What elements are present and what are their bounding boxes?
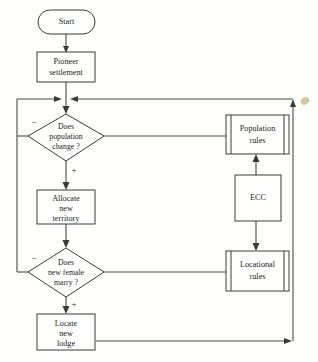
flowchart-canvas: Start Pioneer settlement Does population…: [0, 0, 318, 362]
node-pioneer-settlement-label-line2: settlement: [49, 68, 83, 77]
node-female-decision-label-line2: new female: [48, 268, 85, 277]
node-locate-lodge-label-line2: new: [59, 329, 73, 338]
node-population-rules-label-line1: Population: [240, 124, 275, 133]
node-population-decision-label-line3: change ?: [52, 142, 80, 151]
node-locational-rules[interactable]: Locational rules: [226, 251, 289, 291]
node-pioneer-settlement[interactable]: Pioneer settlement: [37, 52, 95, 82]
node-locate-lodge-label-line3: lodge: [57, 339, 76, 348]
node-start[interactable]: Start: [38, 10, 95, 34]
node-ecc[interactable]: ECC: [235, 175, 281, 221]
connector-right-return-vertical: [290, 99, 296, 341]
node-population-rules[interactable]: Population rules: [226, 115, 289, 154]
node-allocate-new-territory[interactable]: Allocate new territory: [37, 190, 95, 224]
female-decision-negative-sign: −: [31, 253, 36, 263]
node-allocate-label-line2: new: [59, 204, 73, 213]
connector-allocate-to-female-decision: [63, 224, 70, 248]
connector-ecc-to-population-rules: [253, 154, 260, 175]
connector-locational-rules-to-decision: [93, 269, 226, 275]
node-start-label: Start: [59, 17, 75, 26]
node-locational-rules-label-line2: rules: [250, 272, 266, 281]
population-decision-positive-sign: +: [71, 165, 76, 175]
node-population-decision-label-line1: Does: [58, 122, 74, 131]
population-decision-negative-sign: −: [31, 117, 36, 127]
node-locate-lodge-label-line1: Locate: [55, 319, 78, 328]
connector-ecc-to-locational-rules: [253, 221, 260, 251]
connector-female-yes-to-locate-lodge: [63, 297, 70, 314]
connector-junction-to-population-decision: [63, 97, 70, 114]
connector-start-to-pioneer: [63, 34, 69, 53]
flowchart-diagram: Start Pioneer settlement Does population…: [0, 0, 318, 362]
node-female-decision-label-line1: Does: [58, 258, 74, 267]
node-population-rules-label-line2: rules: [250, 136, 266, 145]
node-ecc-label: ECC: [250, 193, 266, 202]
connector-population-rules-to-decision: [93, 133, 226, 139]
connector-right-loop-top: [70, 96, 293, 102]
node-locate-new-lodge[interactable]: Locate new lodge: [37, 314, 95, 350]
node-female-decision-label-line3: marry ?: [54, 278, 79, 287]
connector-population-yes-to-allocate: [63, 161, 70, 190]
node-pioneer-settlement-label-line1: Pioneer: [53, 57, 78, 66]
connector-left-loop-top: [17, 96, 62, 102]
connector-population-no-to-left-loop: [17, 99, 40, 136]
node-population-decision-label-line2: population: [49, 132, 82, 141]
female-decision-positive-sign: +: [71, 299, 76, 309]
node-allocate-label-line1: Allocate: [52, 194, 80, 203]
node-allocate-label-line3: territory: [53, 214, 81, 223]
node-locational-rules-label-line1: Locational: [240, 260, 276, 269]
connector-locate-lodge-to-right-return: [96, 338, 292, 344]
scan-smudge-artifact: [299, 96, 310, 106]
